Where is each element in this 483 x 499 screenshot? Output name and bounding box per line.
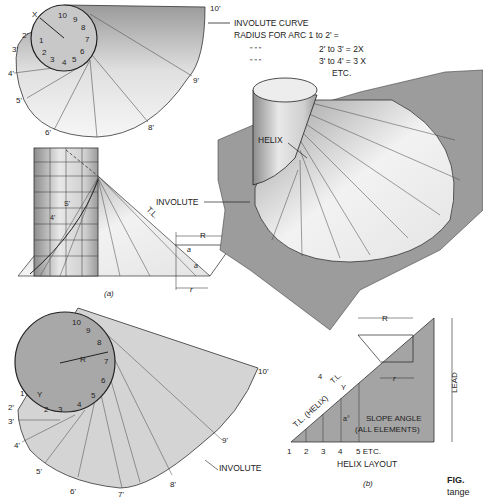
part-a-label: (a) — [104, 289, 114, 298]
slope-angle-1: SLOPE ANGLE — [366, 414, 422, 423]
bcn-5: 5 — [91, 391, 96, 400]
bcn-10: 10 — [72, 318, 81, 327]
bcn-1: 1 — [20, 389, 25, 398]
bpp-2: 2' — [8, 403, 14, 412]
cyl-tl: T.L. — [145, 205, 160, 220]
part-b-label: (b) — [363, 479, 373, 488]
layout-R: R — [382, 314, 388, 323]
helix-layout: R r LEAD T.L. (HELIX) T.L. Y 4 a° SLOPE … — [287, 314, 459, 488]
bcn-8: 8 — [97, 338, 102, 347]
note-line-1: INVOLUTE CURVE — [234, 18, 309, 28]
helix-involute-figure: 10 9 8 7 6 5 4 3 2 1 X 2' 3' 4' 5' 6' 8'… — [0, 0, 483, 499]
bpp-3: 3' — [8, 417, 14, 426]
bottom-involute-view: R Y 10 9 8 7 6 5 4 3 2 1 2' 3' 4' 5' 6' … — [8, 308, 269, 499]
bpp-9: 9' — [222, 436, 228, 445]
bpp-7: 7' — [118, 490, 124, 499]
cyl-a1: a — [187, 246, 191, 253]
cyl-R: R — [200, 231, 206, 240]
pp-2: 2' — [22, 31, 28, 40]
cn-2: 2 — [42, 48, 47, 57]
x-label: X — [32, 10, 38, 19]
caption-rest: tange — [447, 487, 470, 497]
caption-fig: FIG. — [447, 475, 465, 485]
helix-label: HELIX — [258, 135, 283, 145]
bpp-4: 4' — [14, 441, 20, 450]
cn-9: 9 — [73, 15, 78, 24]
bcn-4: 4 — [77, 400, 82, 409]
lead-label: LEAD — [450, 372, 459, 393]
cyl-r: r — [190, 285, 193, 294]
note-line-2: RADIUS FOR ARC 1 to 2' = — [234, 30, 339, 40]
xp-4: 4 — [338, 447, 343, 456]
four-label: 4 — [318, 372, 322, 381]
pp-10: 10' — [210, 4, 221, 13]
pp-8: 8' — [148, 123, 154, 132]
cn-6: 6 — [80, 47, 85, 56]
cyl-s: S' — [64, 200, 70, 207]
cn-7: 7 — [85, 35, 90, 44]
cyl-4: 4' — [50, 214, 55, 221]
bpp-8: 8' — [170, 480, 176, 489]
pp-5: 5' — [16, 96, 22, 105]
cn-3: 3 — [50, 55, 55, 64]
helix-layout-title: HELIX LAYOUT — [337, 459, 397, 469]
bottom-R: R — [80, 355, 86, 364]
involute-label: INVOLUTE — [156, 197, 199, 207]
note-ditto-4: " " " — [250, 58, 262, 65]
note-line-3: 2' to 3' = 2X — [319, 44, 364, 54]
note-line-4: 3' to 4' = 3 X — [319, 56, 366, 66]
a-deg-label: a° — [343, 415, 350, 422]
top-involute-view: 10 9 8 7 6 5 4 3 2 1 X 2' 3' 4' 5' 6' 8'… — [8, 4, 221, 137]
y-label: Y — [341, 383, 346, 392]
xp-3: 3 — [321, 447, 326, 456]
note-ditto-3: " " " — [250, 46, 262, 53]
pp-4: 4' — [8, 69, 14, 78]
cn-4: 4 — [62, 58, 67, 67]
bpp-10: 10' — [258, 367, 269, 376]
bpp-6: 6' — [70, 487, 76, 496]
slope-angle-2: (ALL ELEMENTS) — [355, 425, 420, 434]
pp-3: 3' — [12, 45, 18, 54]
bottom-involute-label: INVOLUTE — [219, 463, 262, 473]
cyl-a2: a — [194, 262, 198, 269]
cylinder-view: R a a r T.L. S' 4' (a) — [18, 148, 232, 298]
note-line-5: ETC. — [332, 68, 351, 78]
bcn-7: 7 — [104, 357, 109, 366]
pp-9: 9' — [193, 76, 199, 85]
pictorial-view: HELIX INVOLUTE — [156, 70, 483, 330]
bpp-5: 5' — [36, 467, 42, 476]
pp-6: 6' — [45, 128, 51, 137]
bcn-2: 2 — [44, 405, 49, 414]
cn-5: 5 — [72, 55, 77, 64]
bottom-Y: Y — [37, 390, 43, 399]
involute-notes: INVOLUTE CURVE RADIUS FOR ARC 1 to 2' = … — [208, 18, 366, 78]
xp-1: 1 — [287, 447, 292, 456]
bcn-6: 6 — [101, 376, 106, 385]
bcn-9: 9 — [86, 326, 91, 335]
cn-10: 10 — [58, 11, 67, 20]
cn-1: 1 — [39, 36, 44, 45]
bcn-3: 3 — [58, 405, 63, 414]
cn-8: 8 — [81, 23, 86, 32]
xp-5: 5 ETC. — [356, 447, 381, 456]
xp-2: 2 — [304, 447, 309, 456]
layout-r: r — [393, 374, 396, 383]
